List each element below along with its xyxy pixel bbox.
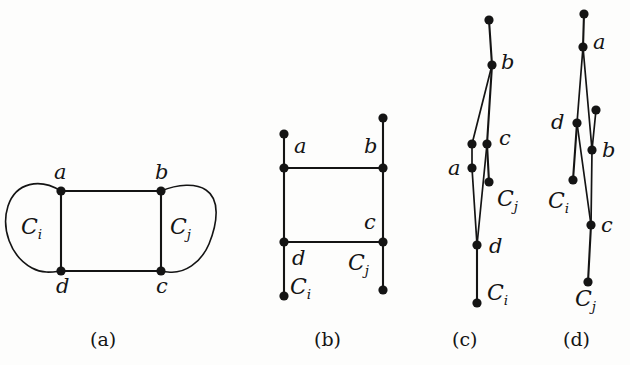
label-c-cluster-cj-base: C <box>497 186 514 211</box>
label-c-vertex-b: b <box>501 52 514 73</box>
label-a-cluster-ci-base: C <box>21 214 38 239</box>
vertex-d-aux <box>591 105 600 114</box>
edge-d-d-c <box>577 123 591 225</box>
label-c-cluster-ci-base: C <box>487 280 504 305</box>
panel-c-graphics <box>467 15 496 307</box>
edge-d-a-d <box>577 47 583 123</box>
figure-canvas <box>0 0 630 365</box>
vertex-b-d <box>279 237 288 246</box>
caption-panel-a: (a) <box>90 330 116 349</box>
edge-d-aux-b <box>592 110 596 150</box>
label-c-vertex-d: d <box>489 236 502 257</box>
edge-d-b-c <box>591 150 592 225</box>
vertex-c-a <box>467 163 476 172</box>
label-a-cluster-cj-sub: j <box>187 226 191 242</box>
label-a-vertex-d: d <box>56 276 69 297</box>
edge-d-top-stub <box>583 14 584 47</box>
vertex-d-b <box>587 145 596 154</box>
label-d-cluster-ci-sub: i <box>565 200 569 216</box>
label-d-vertex-b: b <box>602 140 615 161</box>
label-a-cluster-ci-sub: i <box>38 226 42 242</box>
label-b-cluster-cj: Cj <box>348 252 369 278</box>
label-d-cluster-cj: Cj <box>575 288 596 314</box>
label-a-cluster-ci: Ci <box>21 216 42 242</box>
vertex-c-c <box>482 139 491 148</box>
caption-panel-c: (c) <box>452 330 477 349</box>
label-a-cluster-cj-base: C <box>170 214 187 239</box>
edge-c-c-cj <box>487 144 489 182</box>
label-d-cluster-cj-sub: j <box>592 298 596 314</box>
figure-root: a b d c Ci Cj a b c d Ci Cj b c a d Cj C… <box>0 0 630 365</box>
vertex-d-c <box>586 220 595 229</box>
label-d-cluster-ci: Ci <box>548 190 569 216</box>
vertex-b-topright-end <box>378 113 387 122</box>
vertex-c-ci-end <box>472 298 481 307</box>
edge-d-d-ci <box>573 123 577 180</box>
label-d-cluster-ci-base: C <box>548 188 565 213</box>
label-b-cluster-ci-sub: i <box>307 286 311 302</box>
vertex-b-topleft-end <box>279 129 288 138</box>
vertex-c-d <box>472 240 481 249</box>
vertex-c-top-end <box>484 15 493 24</box>
label-b-cluster-ci-base: C <box>290 274 307 299</box>
vertex-b-b <box>378 163 387 172</box>
vertex-b <box>156 186 165 195</box>
label-b-cluster-ci: Ci <box>290 276 311 302</box>
label-b-vertex-b: b <box>364 136 377 157</box>
vertex-d-a <box>578 42 587 51</box>
label-c-cluster-ci-sub: i <box>504 292 508 308</box>
caption-panel-b: (b) <box>314 330 341 349</box>
label-c-cluster-cj: Cj <box>497 188 518 214</box>
edge-c-top-stub <box>489 20 492 65</box>
vertex-b-a <box>279 163 288 172</box>
label-d-cluster-cj-base: C <box>575 286 592 311</box>
vertex-c-b <box>487 60 496 69</box>
vertex-b-ci-end <box>279 291 288 300</box>
edge-d-c-cj <box>588 225 591 282</box>
label-a-vertex-a: a <box>54 162 67 183</box>
edge-c-a-d <box>472 168 477 245</box>
vertex-d-ci-end <box>568 175 577 184</box>
label-d-vertex-a: a <box>593 32 606 53</box>
vertex-a <box>56 186 65 195</box>
vertex-c-left-aux <box>467 139 476 148</box>
vertex-d-top-end <box>579 9 588 18</box>
vertex-b-c <box>378 237 387 246</box>
label-b-vertex-c: c <box>364 212 376 233</box>
label-c-vertex-a: a <box>448 158 461 179</box>
caption-panel-d: (d) <box>563 330 590 349</box>
label-a-vertex-b: b <box>155 162 168 183</box>
edge-c-c-d <box>477 144 487 245</box>
label-a-vertex-c: c <box>156 276 168 297</box>
label-d-vertex-c: c <box>601 215 613 236</box>
label-c-cluster-ci: Ci <box>487 282 508 308</box>
label-c-vertex-c: c <box>499 128 511 149</box>
vertex-d-d <box>572 118 581 127</box>
label-b-cluster-cj-base: C <box>348 250 365 275</box>
label-b-cluster-cj-sub: j <box>365 262 369 278</box>
vertex-c-cj-end <box>484 177 493 186</box>
edge-d-a-b <box>583 47 592 150</box>
label-a-cluster-cj: Cj <box>170 216 191 242</box>
vertex-b-cj-end <box>378 285 387 294</box>
label-b-vertex-d: d <box>292 248 305 269</box>
label-d-vertex-d: d <box>551 112 564 133</box>
label-c-cluster-cj-sub: j <box>514 198 518 214</box>
label-b-vertex-a: a <box>294 136 307 157</box>
